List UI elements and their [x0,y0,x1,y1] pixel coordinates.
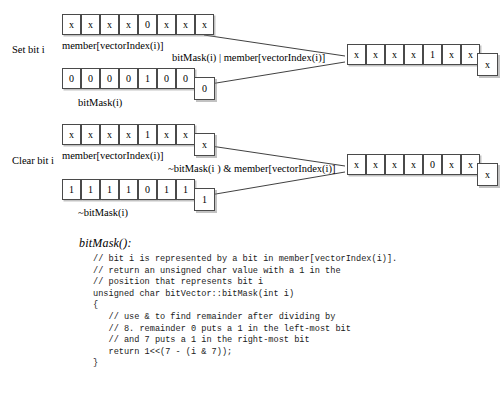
bit-cell: 1 [138,68,157,89]
bit-cell: x [81,124,100,145]
bit-cell: x [347,44,366,65]
bit-cell: 0 [176,68,195,89]
bit-cell: 1 [119,179,138,200]
section-label-clear-bit: Clear bit i [12,155,54,166]
bit-cell: x [157,14,176,35]
operation-label-set-bit: bitMask(i) | member[vectorIndex(i)] [172,52,325,63]
bit-cell: x [385,154,404,175]
bit-cell: 0 [138,14,157,35]
bit-cell: x [176,124,195,145]
bit-cell: 1 [157,179,176,200]
code-line: // return an unsigned char value with a … [79,266,397,278]
code-line: unsigned char bitVector::bitMask(int i) [79,289,397,301]
bit-cell: x [442,44,461,65]
bit-cell: x [366,44,385,65]
bit-cell-tail: x [477,53,498,76]
bit-cell: x [442,154,461,175]
bit-cell: x [366,154,385,175]
bit-cell: x [100,14,119,35]
bit-cell: x [157,124,176,145]
code-line: // and 7 puts a 1 in the right-most bit [79,335,397,347]
bit-cell: 0 [62,68,81,89]
bit-cell: x [176,14,195,35]
bit-cell-tail: x [477,163,498,186]
bit-cell: 1 [81,179,100,200]
bit-cell: 1 [62,179,81,200]
bit-cell: x [347,154,366,175]
caption-clear-operand-a: member[vectorIndex(i)] [62,150,163,161]
bit-cell: 1 [100,179,119,200]
caption-clear-operand-b: ~bitMask(i) [78,207,128,218]
figure-canvas: Set bit i x x x x 0 x x x member[vectorI… [0,0,501,402]
code-line: // use & to find remainder after dividin… [79,312,397,324]
bit-cell: x [404,44,423,65]
bit-cell: 1 [423,44,442,65]
caption-set-operand-b: bitMask(i) [78,97,122,108]
bit-cell: 0 [81,68,100,89]
bit-cell-tail: x [194,133,215,156]
bit-cell: x [81,14,100,35]
code-line: return 1<<(7 - (i & 7)); [79,347,397,359]
bit-cell: x [119,14,138,35]
bit-cell: 0 [100,68,119,89]
bit-cell-tail: 1 [194,188,215,211]
code-block: bitMask(): // bit i is represented by a … [79,236,397,370]
bit-cell: x [385,44,404,65]
bit-cell: x [119,124,138,145]
bit-cell: 0 [119,68,138,89]
bit-cell: 0 [157,68,176,89]
code-line: // 8. remainder 0 puts a 1 in the left-m… [79,324,397,336]
bit-cell: 0 [138,179,157,200]
code-line: { [79,300,397,312]
bit-cell: x [62,124,81,145]
code-block-title: bitMask(): [79,236,397,251]
bit-cell: x [404,154,423,175]
caption-set-operand-a: member[vectorIndex(i)] [62,40,163,51]
bit-cell: x [62,14,81,35]
code-line: // position that represents bit i [79,277,397,289]
bit-cell: x [195,14,214,35]
bit-cell-tail: 0 [194,77,215,100]
bit-cell: 1 [138,124,157,145]
bit-cell: 0 [423,154,442,175]
bit-cell: 1 [176,179,195,200]
bit-cell: x [100,124,119,145]
code-line: // bit i is represented by a bit in memb… [79,254,397,266]
operation-label-clear-bit: ~bitMask(i ) & member[vectorIndex(i)] [168,163,336,174]
code-line: } [79,358,397,370]
section-label-set-bit: Set bit i [12,44,45,55]
